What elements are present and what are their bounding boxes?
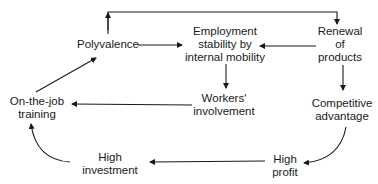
edge-profit-to-investment	[150, 161, 265, 162]
node-label: On-the-job	[10, 95, 64, 108]
node-label: involvement	[193, 105, 254, 118]
node-label: High	[82, 151, 138, 164]
node-label: Employment	[185, 25, 265, 38]
node-label: training	[10, 108, 64, 121]
node-label: High	[272, 153, 298, 166]
node-label: Polyvalence	[77, 38, 139, 51]
node-workers-involvement: Workers' involvement	[193, 92, 254, 118]
node-on-the-job-training: On-the-job training	[10, 95, 64, 121]
edge-investment-to-training	[31, 124, 70, 162]
node-label: profit	[272, 166, 298, 179]
flow-diagram: Polyvalence Employment stability by inte…	[0, 0, 378, 184]
node-competitive-advantage: Competitive advantage	[312, 97, 373, 123]
node-employment-stability: Employment stability by internal mobilit…	[185, 25, 265, 64]
node-renewal-of-products: Renewal of products	[318, 25, 363, 64]
node-label: of	[318, 38, 363, 51]
node-label: investment	[82, 164, 138, 177]
edge-training-to-polyvalence	[36, 58, 96, 92]
node-label: products	[318, 51, 363, 64]
node-label: internal mobility	[185, 51, 265, 64]
node-high-investment: High investment	[82, 151, 138, 177]
node-label: Renewal	[318, 25, 363, 38]
node-label: Competitive	[312, 97, 373, 110]
node-high-profit: High profit	[272, 153, 298, 179]
node-label: Workers'	[193, 92, 254, 105]
node-label: stability by	[185, 38, 265, 51]
node-polyvalence: Polyvalence	[77, 38, 139, 51]
node-label: advantage	[312, 110, 373, 123]
edge-workers-to-training	[72, 104, 192, 105]
edge-competitive-to-profit	[304, 127, 346, 163]
